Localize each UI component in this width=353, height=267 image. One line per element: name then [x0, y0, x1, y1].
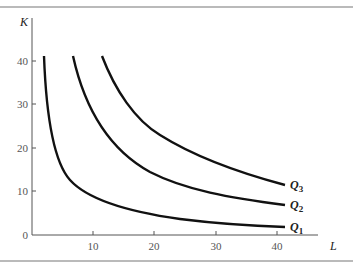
curve-q3	[102, 56, 285, 185]
y-tick-0: 0	[23, 229, 29, 241]
y-ticks: 0 10 20 30 40	[17, 55, 36, 241]
y-tick-40: 40	[17, 55, 29, 67]
label-q3: Q3	[290, 178, 304, 194]
x-tick-20: 20	[149, 240, 161, 252]
curve-q2	[73, 56, 285, 205]
y-tick-10: 10	[17, 185, 29, 197]
x-axis-label: L	[329, 239, 337, 253]
y-tick-20: 20	[17, 142, 29, 154]
label-q1: Q1	[290, 220, 304, 236]
x-ticks: 10 20 30 40	[88, 231, 284, 252]
isoquant-chart: 0 10 20 30 40 10 20 30 40 K L Q3 Q2 Q1	[0, 0, 353, 267]
label-q2: Q2	[290, 198, 304, 214]
y-axis-label: K	[19, 15, 29, 29]
x-tick-30: 30	[211, 240, 223, 252]
y-tick-30: 30	[17, 98, 29, 110]
x-tick-40: 40	[272, 240, 284, 252]
x-tick-10: 10	[88, 240, 100, 252]
